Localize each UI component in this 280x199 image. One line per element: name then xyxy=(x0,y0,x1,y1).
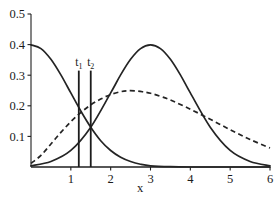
threshold-label-t1: t1 xyxy=(75,56,82,71)
y-axis-group: 0.10.20.30.40.5 xyxy=(9,7,31,167)
y-tick-label: 0.1 xyxy=(9,130,25,144)
y-tick-label: 0.2 xyxy=(9,99,25,113)
y-tick-labels: 0.10.20.30.40.5 xyxy=(9,7,25,143)
threshold-label-t2: t2 xyxy=(87,56,94,71)
y-tick-label: 0.4 xyxy=(9,38,25,52)
x-tick-label: 5 xyxy=(227,172,233,186)
x-tick-labels: 123456 xyxy=(68,172,273,186)
chart-figure: 0.10.20.30.40.5 123456 t1t2 x xyxy=(0,0,280,199)
x-tick-label: 2 xyxy=(108,172,114,186)
y-tick-label: 0.3 xyxy=(9,69,25,83)
threshold-marker-labels: t1t2 xyxy=(75,56,94,71)
curve-left-decaying-density xyxy=(31,45,270,167)
density-curves xyxy=(31,45,270,167)
y-tick-label: 0.5 xyxy=(9,7,25,21)
density-plot: 0.10.20.30.40.5 123456 t1t2 x xyxy=(0,0,280,199)
curve-right-bell-density xyxy=(31,45,270,166)
x-tick-label: 6 xyxy=(267,172,273,186)
curve-broad-dashed-density xyxy=(31,91,270,164)
x-axis-group: 123456 xyxy=(31,167,273,186)
x-tick-label: 3 xyxy=(147,172,153,186)
x-tick-label: 4 xyxy=(187,172,194,186)
x-axis-title: x xyxy=(137,181,144,195)
x-tick-label: 1 xyxy=(68,172,74,186)
